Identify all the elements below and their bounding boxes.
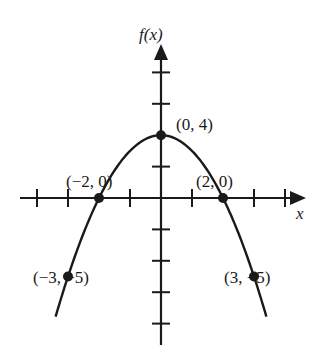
x-axis-label: x — [295, 204, 304, 223]
data-point — [218, 193, 228, 203]
x-axis-arrow-icon — [290, 191, 306, 205]
data-point — [94, 193, 104, 203]
y-axis-arrow-icon — [154, 44, 168, 60]
point-label-left-low: (−3, −5) — [33, 268, 89, 287]
point-label-right-root: (2, 0) — [196, 172, 233, 191]
point-label-vertex: (0, 4) — [176, 115, 213, 134]
parabola-chart: f(x) x (0, 4) (−2, 0) (2, 0) (−3, −5) (3… — [0, 0, 323, 364]
point-label-right-low: (3, −5) — [224, 268, 270, 287]
y-axis-label: f(x) — [139, 25, 163, 44]
point-label-left-root: (−2, 0) — [66, 172, 112, 191]
data-point — [156, 130, 166, 140]
